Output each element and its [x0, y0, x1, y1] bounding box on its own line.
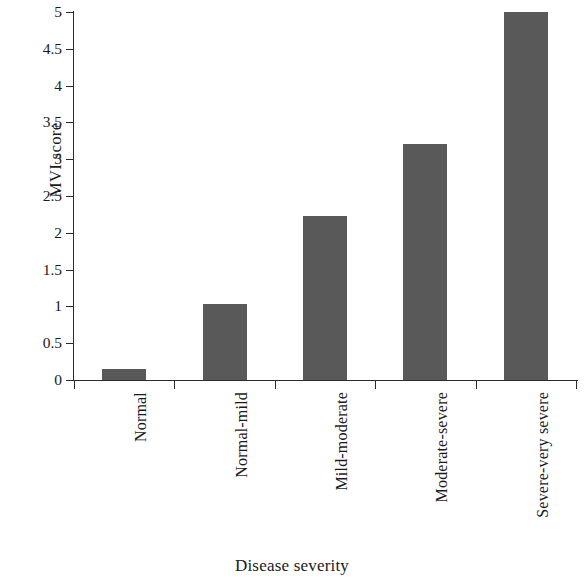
bar-chart: MVI score 00.511.522.533.544.55 NormalNo…: [0, 0, 584, 583]
bars-container: [74, 12, 576, 380]
y-tick-label: 1.5: [16, 262, 62, 278]
x-tick: [74, 381, 75, 389]
y-tick-label: 3.5: [16, 114, 62, 130]
x-axis-line: [66, 380, 578, 381]
y-tick-label: 4.5: [16, 41, 62, 57]
y-tick: [66, 196, 74, 197]
y-tick-label: 2: [16, 225, 62, 241]
y-tick-label: 0.5: [16, 335, 62, 351]
y-tick: [66, 86, 74, 87]
bar: [203, 304, 247, 380]
x-category-label: Normal-mild: [233, 392, 251, 583]
x-category-label: Severe-very severe: [534, 392, 552, 583]
y-tick-label: 2.5: [16, 188, 62, 204]
x-tick: [476, 381, 477, 389]
y-tick: [66, 12, 74, 13]
y-tick: [66, 49, 74, 50]
y-tick: [66, 343, 74, 344]
bar: [102, 369, 146, 380]
bar: [504, 12, 548, 380]
x-tick: [174, 381, 175, 389]
x-axis-title: Disease severity: [0, 556, 584, 576]
y-tick: [66, 159, 74, 160]
bar: [303, 216, 347, 380]
y-tick: [66, 380, 74, 381]
x-tick: [275, 381, 276, 389]
y-tick: [66, 233, 74, 234]
x-category-label: Moderate-severe: [433, 392, 451, 583]
x-category-label: Normal: [132, 392, 150, 583]
y-tick: [66, 306, 74, 307]
x-category-label: Mild-moderate: [333, 392, 351, 583]
y-tick-label: 1: [16, 298, 62, 314]
x-tick: [576, 381, 577, 389]
y-tick: [66, 270, 74, 271]
bar: [403, 144, 447, 380]
x-tick: [375, 381, 376, 389]
y-tick-label: 4: [16, 78, 62, 94]
y-tick-label: 3: [16, 151, 62, 167]
y-tick: [66, 122, 74, 123]
y-tick-label: 0: [16, 372, 62, 388]
y-tick-label: 5: [16, 4, 62, 20]
